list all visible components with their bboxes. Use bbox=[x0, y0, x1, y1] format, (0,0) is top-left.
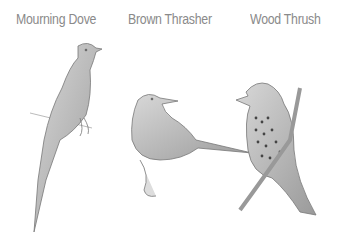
thrasher-sketch-icon bbox=[132, 94, 252, 196]
thrush-sketch-icon bbox=[236, 83, 316, 215]
bird-illustrations bbox=[0, 0, 341, 247]
dove-sketch-icon bbox=[30, 43, 102, 232]
